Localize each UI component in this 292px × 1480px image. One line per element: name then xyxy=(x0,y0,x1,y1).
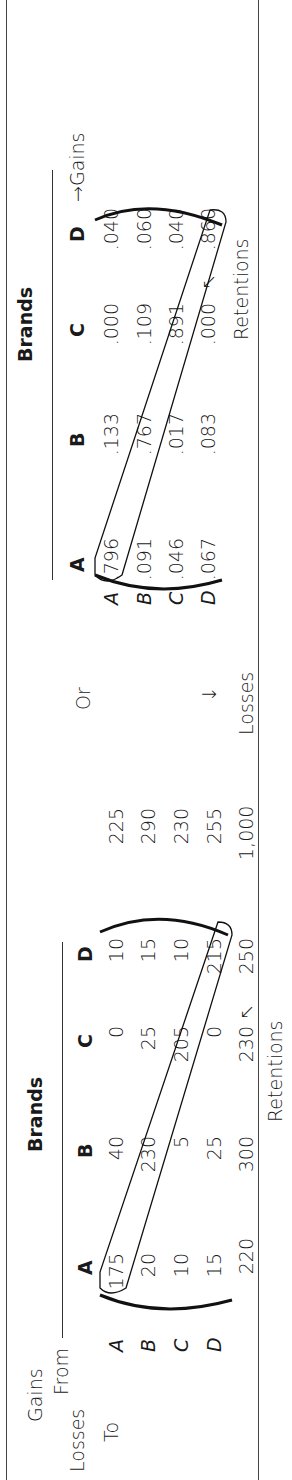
right-cell: .060 xyxy=(133,208,155,260)
right-cell: .796 xyxy=(100,538,122,590)
left-row-label-c: C xyxy=(170,1339,192,1352)
right-cell: .000 xyxy=(197,303,219,355)
left-cell: 0 xyxy=(203,1026,225,1078)
right-col-header-b: B xyxy=(66,433,88,447)
left-col-total: 220 xyxy=(235,1238,257,1290)
left-row-total: 290 xyxy=(137,808,159,860)
left-cell: 20 xyxy=(137,1253,159,1305)
left-row-total: 255 xyxy=(203,808,225,860)
left-col-total: 230 xyxy=(235,1026,257,1078)
left-row-total: 230 xyxy=(170,808,192,860)
or-label: Or xyxy=(72,687,94,710)
right-cell: .046 xyxy=(165,538,187,590)
left-cell: 0 xyxy=(105,1026,127,1078)
to-label: To xyxy=(100,1422,122,1442)
right-cell: .040 xyxy=(165,208,187,260)
right-cell: .860 xyxy=(197,208,219,260)
right-cell: .067 xyxy=(197,538,219,590)
right-brands-rule xyxy=(52,170,53,580)
left-grand-total: 1,000 xyxy=(235,808,257,860)
left-cell: 40 xyxy=(105,1136,127,1188)
right-col-header-d: D xyxy=(66,226,88,242)
left-retentions-label: Retentions xyxy=(264,1020,286,1122)
left-col-header-c: C xyxy=(74,1034,96,1048)
left-cell: 205 xyxy=(170,1026,192,1078)
left-col-header-b: B xyxy=(74,1144,96,1158)
connector-losses-label: Losses xyxy=(235,672,257,735)
right-retentions-arrow: ↖ xyxy=(197,274,219,290)
brand-switching-matrix-figure: Gains From Losses To Brands A B C D A B … xyxy=(0,0,292,1480)
left-cell: 10 xyxy=(170,938,192,990)
right-row-label-a: A xyxy=(100,592,122,605)
left-col-header-a: A xyxy=(74,1260,96,1275)
gains-label: Gains xyxy=(24,1368,46,1422)
right-retention-band xyxy=(95,210,226,581)
left-brands-header: Brands xyxy=(24,1077,46,1152)
from-label: From xyxy=(50,1348,72,1395)
right-gains-label: →Gains xyxy=(66,132,88,202)
frame-top-rule xyxy=(6,0,7,1480)
right-cell: .083 xyxy=(197,413,219,465)
left-cell: 230 xyxy=(137,1136,159,1188)
right-retentions-label: Retentions xyxy=(230,238,252,340)
left-cell: 215 xyxy=(203,938,225,990)
right-brands-header: Brands xyxy=(14,287,36,362)
right-cell: .017 xyxy=(165,413,187,465)
right-cell: .000 xyxy=(100,303,122,355)
left-row-label-a: A xyxy=(105,1339,127,1352)
left-close-paren-icon xyxy=(100,919,228,935)
frame-bottom-rule xyxy=(258,0,259,1480)
left-cell: 15 xyxy=(203,1253,225,1305)
right-cell: .091 xyxy=(133,538,155,590)
right-cell: .040 xyxy=(100,208,122,260)
left-row-label-b: B xyxy=(137,1339,159,1352)
right-col-header-c: C xyxy=(66,323,88,337)
right-cell: .133 xyxy=(100,413,122,465)
left-cell: 25 xyxy=(137,1026,159,1078)
losses-down-arrow: ↓ xyxy=(198,686,220,702)
right-row-label-c: C xyxy=(165,592,187,605)
right-cell: .767 xyxy=(133,413,155,465)
right-row-label-b: B xyxy=(133,592,155,605)
left-col-total: 300 xyxy=(235,1136,257,1188)
left-row-total: 225 xyxy=(105,808,127,860)
left-cell: 15 xyxy=(137,938,159,990)
left-cell: 175 xyxy=(105,1253,127,1305)
losses-label: Losses xyxy=(66,1409,88,1472)
left-cell: 10 xyxy=(105,938,127,990)
left-retentions-arrow: ↖ xyxy=(235,1004,257,1020)
left-row-label-d: D xyxy=(203,1337,225,1352)
right-cell: .891 xyxy=(165,303,187,355)
left-cell: 25 xyxy=(203,1136,225,1188)
right-row-label-d: D xyxy=(197,590,219,605)
left-col-header-d: D xyxy=(74,946,96,962)
left-cell: 5 xyxy=(170,1136,192,1188)
left-brands-rule xyxy=(62,942,63,1338)
right-col-header-a: A xyxy=(66,557,88,572)
right-cell: .109 xyxy=(133,303,155,355)
left-col-total: 250 xyxy=(235,938,257,990)
left-cell: 10 xyxy=(170,1253,192,1305)
